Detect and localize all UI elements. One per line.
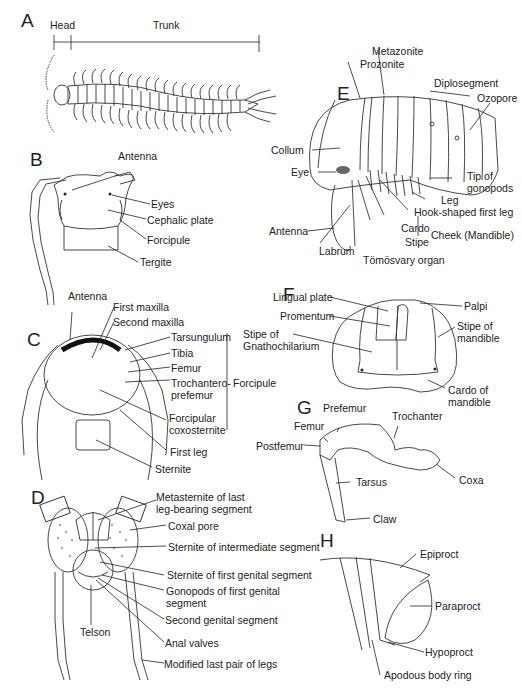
label-eye: Eye: [291, 166, 309, 178]
panel-label-b: B: [30, 150, 43, 170]
label-mandible-cardo: mandible: [448, 396, 491, 408]
label-tarsus: Tarsus: [356, 476, 387, 488]
label-cheek-mandible: Cheek (Mandible): [431, 229, 514, 241]
label-first-maxilla: First maxilla: [113, 301, 169, 313]
panel-label-e: E: [337, 84, 350, 104]
label-sternite-first-genital: Sternite of first genital segment: [167, 569, 312, 581]
label-forcipule-c: Forcipule: [233, 377, 276, 389]
label-stipe: Stipe: [405, 236, 429, 248]
label-second-genital: Second genital segment: [165, 614, 278, 626]
label-palpi: Palpi: [464, 300, 487, 312]
label-mandible-stipe: mandible: [457, 332, 500, 344]
label-lingual-plate: Lingual plate: [273, 291, 333, 303]
label-cardo-of-mandible: Cardo of: [448, 384, 488, 396]
label-anal-valves: Anal valves: [165, 637, 219, 649]
label-coxal-pore: Coxal pore: [168, 520, 219, 532]
label-prefemur-c: prefemur: [171, 389, 213, 401]
label-sternite-intermediate: Sternite of intermediate segment: [168, 541, 320, 553]
label-stipe-of-mandible: Stipe of: [457, 320, 493, 332]
centipede-head-dorsal-drawing: [30, 172, 150, 305]
label-leg: Leg: [441, 194, 459, 206]
panel-label-a: A: [21, 11, 34, 31]
millipede-posterior-drawing: [320, 554, 432, 675]
label-tibia: Tibia: [171, 347, 193, 359]
label-second-maxilla: Second maxilla: [113, 316, 184, 328]
label-epiproct: Epiproct: [420, 548, 459, 560]
label-metasternite-2: leg-bearing segment: [156, 503, 252, 515]
label-sternite: Sternite: [155, 463, 191, 475]
label-tomosvary-organ: Tömösvary organ: [363, 254, 445, 266]
label-ozopore: Ozopore: [477, 92, 517, 104]
label-hypoproct: Hypoproct: [425, 646, 473, 658]
label-first-leg: First leg: [170, 446, 207, 458]
label-tarsungulum: Tarsungulum: [171, 331, 231, 343]
centipede-dorsal-drawing: [46, 35, 276, 133]
centipede-posterior-drawing: [40, 496, 166, 680]
label-metazonite: Metazonite: [372, 45, 423, 57]
label-diplosegment: Diplosegment: [434, 77, 498, 89]
label-gonopods-e: gonopods: [467, 182, 513, 194]
label-gnathochilarium: Gnathochilarium: [243, 340, 319, 352]
label-postfemur: Postfemur: [256, 440, 304, 452]
panel-label-d: D: [31, 488, 45, 508]
label-head: Head: [50, 19, 75, 31]
label-antenna-b: Antenna: [118, 150, 157, 162]
panel-label-c: C: [27, 330, 41, 350]
label-coxa: Coxa: [459, 474, 484, 486]
label-femur-c: Femur: [171, 362, 201, 374]
label-trunk: Trunk: [153, 19, 179, 31]
label-eyes: Eyes: [151, 198, 174, 210]
label-apodous-body-ring: Apodous body ring: [384, 669, 472, 681]
panel-label-h: H: [320, 531, 334, 551]
label-coxosternite: coxosternite: [169, 424, 226, 436]
label-prozonite: Prozonite: [360, 58, 404, 70]
millipede-leg-drawing: [304, 424, 455, 522]
label-labrum: Labrum: [319, 245, 355, 257]
label-antenna-c: Antenna: [68, 290, 107, 302]
label-prefemur-g: Prefemur: [323, 402, 366, 414]
label-forcipule-b: Forcipule: [147, 234, 190, 246]
panel-label-g: G: [297, 398, 312, 418]
label-tergite: Tergite: [140, 256, 172, 268]
label-cardo: Cardo: [401, 222, 430, 234]
label-metasternite-1: Metasternite of last: [156, 491, 245, 503]
label-hook-first-leg: Hook-shaped first leg: [414, 206, 513, 218]
label-gonopods-2: segment: [166, 597, 206, 609]
label-tip-of: Tip of: [467, 170, 493, 182]
label-paraproct: Paraproct: [435, 600, 481, 612]
label-femur-g: Femur: [294, 420, 324, 432]
label-collum: Collum: [271, 144, 304, 156]
label-trochanter: Trochanter: [392, 410, 442, 422]
label-forcipular: Forcipular: [169, 412, 216, 424]
label-cephalic-plate: Cephalic plate: [147, 214, 214, 226]
label-telson: Telson: [80, 626, 110, 638]
label-trochantero: Trochantero-: [171, 377, 231, 389]
label-stipe-of-gn: Stipe of: [243, 328, 279, 340]
label-claw: Claw: [373, 513, 396, 525]
label-antenna-e: Antenna: [269, 225, 308, 237]
label-modified-legs: Modified last pair of legs: [164, 658, 277, 670]
label-gonopods-1: Gonopods of first genital: [166, 585, 280, 597]
label-promentum: Promentum: [280, 310, 334, 322]
